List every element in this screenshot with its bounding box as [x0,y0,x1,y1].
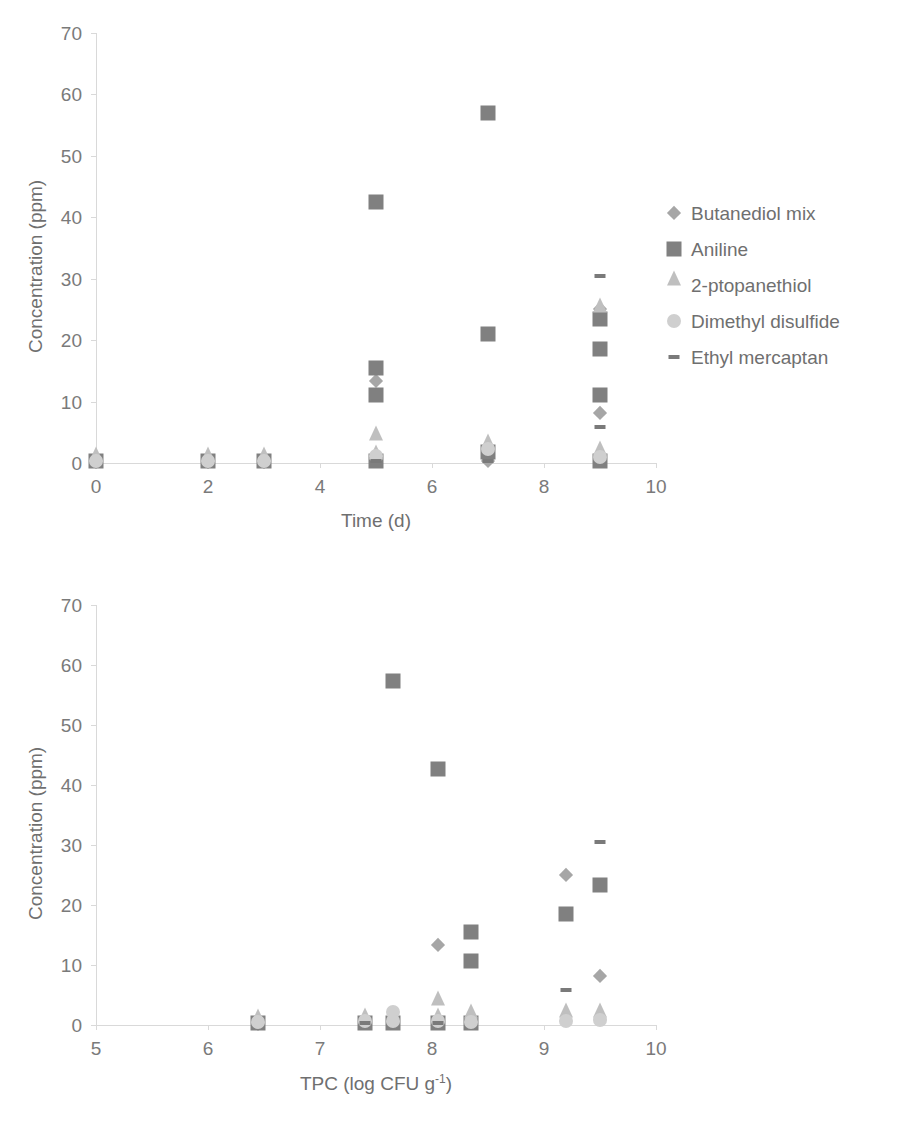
y-tick-mark [91,156,96,157]
x-tick-label: 5 [76,1039,116,1058]
marker-dash-datapoint [432,1021,443,1025]
marker-square-datapoint [430,761,445,776]
x-tick-mark [208,1025,209,1030]
marker-dash-datapoint [371,459,382,463]
x-tick-mark [320,463,321,468]
marker-diamond-datapoint [559,868,573,882]
marker-square-datapoint [481,327,496,342]
x-tick-label: 8 [524,477,564,496]
legend-item-aniline[interactable]: Aniline [663,231,840,267]
legend-item-ethyl-mercaptan[interactable]: Ethyl mercaptan [663,339,840,375]
x-tick-label: 6 [188,1039,228,1058]
marker-dash-datapoint [595,425,606,429]
marker-circle-datapoint [464,1015,478,1029]
marker-square-datapoint [593,388,608,403]
y-tick-mark [91,905,96,906]
x-tick-label: 2 [188,477,228,496]
legend-marker-dimethyl-disulfide-icon [663,310,685,332]
y-axis-line [96,33,97,463]
plot-area-time: 0102030405060700246810 [96,33,656,463]
marker-square-datapoint [593,311,608,326]
marker-triangle-legend [667,270,681,285]
legend-marker-ptopanethiol-icon [663,274,685,296]
x-tick-label: 7 [300,1039,340,1058]
marker-circle-datapoint [89,454,103,468]
marker-dash-datapoint [359,1021,370,1025]
x-tick-label: 6 [412,477,452,496]
marker-circle-datapoint [559,1014,573,1028]
y-tick-mark [91,340,96,341]
marker-square-datapoint [593,877,608,892]
x-tick-label: 0 [76,477,116,496]
marker-circle-legend [667,314,681,328]
marker-circle-datapoint [593,450,607,464]
marker-square-datapoint [369,360,384,375]
marker-dash-datapoint [483,459,494,463]
y-tick-mark [91,33,96,34]
y-tick-mark [91,785,96,786]
y-tick-mark [91,94,96,95]
legend-label: Butanediol mix [691,204,816,223]
marker-triangle-datapoint [369,426,383,441]
legend-time: Butanediol mixAniline2-ptopanethiolDimet… [663,195,840,375]
marker-triangle-datapoint [431,990,445,1005]
chart-tpc-figure: 0102030405060705678910 Butanediol mixAni… [0,560,919,1145]
x-tick-mark [656,1025,657,1030]
marker-triangle-datapoint [593,298,607,313]
y-axis-title-tpc: Concentration (ppm) [26,747,45,920]
legend-item-ptopanethiol[interactable]: 2-ptopanethiol [663,267,840,303]
marker-circle-datapoint [257,454,271,468]
marker-dash-datapoint [561,988,572,992]
y-tick-label: 50 [34,147,82,166]
marker-square-datapoint [593,342,608,357]
x-tick-label: 10 [636,1039,676,1058]
marker-diamond-legend [667,206,681,220]
marker-diamond-datapoint [593,969,607,983]
marker-square-datapoint [464,925,479,940]
legend-label: 2-ptopanethiol [691,276,811,295]
x-tick-label: 8 [412,1039,452,1058]
legend-label: Ethyl mercaptan [691,348,828,367]
x-axis-title-superscript: -1 [435,1072,446,1086]
y-tick-label: 0 [34,1016,82,1035]
y-tick-mark [91,217,96,218]
legend-item-dimethyl-disulfide[interactable]: Dimethyl disulfide [663,303,840,339]
marker-square-datapoint [559,907,574,922]
y-tick-label: 60 [34,656,82,675]
legend-label: Aniline [691,240,748,259]
marker-diamond-datapoint [593,405,607,419]
legend-item-butanediol-mix[interactable]: Butanediol mix [663,195,840,231]
y-tick-mark [91,845,96,846]
marker-square-legend [667,242,682,257]
y-tick-mark [91,605,96,606]
x-axis-title-tpc: TPC (log CFU g-1) [96,1073,656,1093]
marker-circle-datapoint [251,1015,265,1029]
marker-square-datapoint [464,953,479,968]
y-tick-mark [91,279,96,280]
x-tick-mark [544,1025,545,1030]
marker-dash-datapoint [595,840,606,844]
y-tick-label: 50 [34,716,82,735]
marker-diamond-datapoint [369,374,383,388]
y-tick-label: 10 [34,393,82,412]
x-tick-mark [544,463,545,468]
y-tick-label: 10 [34,956,82,975]
legend-label: Dimethyl disulfide [691,312,840,331]
y-axis-line [96,605,97,1025]
x-tick-mark [656,463,657,468]
x-tick-label: 4 [300,477,340,496]
marker-square-datapoint [481,105,496,120]
plot-area-tpc: 0102030405060705678910 [96,605,656,1025]
marker-diamond-datapoint [430,938,444,952]
legend-marker-aniline-icon [663,238,685,260]
marker-dash-legend [669,355,680,359]
x-axis-title-time: Time (d) [96,511,656,530]
marker-circle-datapoint [481,442,495,456]
y-tick-label: 60 [34,85,82,104]
marker-square-datapoint [369,388,384,403]
legend-marker-ethyl-mercaptan-icon [663,346,685,368]
marker-circle-datapoint [593,1013,607,1027]
y-tick-mark [91,402,96,403]
legend-marker-butanediol-mix-icon [663,202,685,224]
marker-circle-datapoint [201,454,215,468]
